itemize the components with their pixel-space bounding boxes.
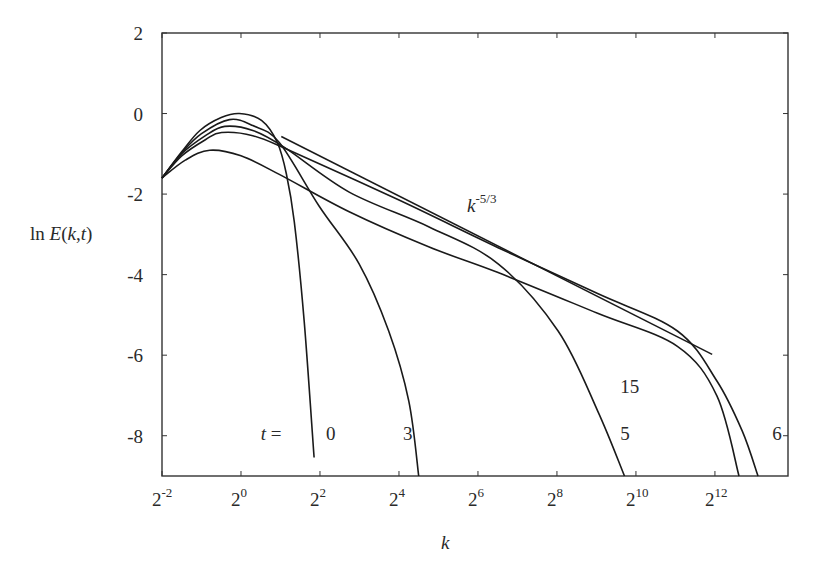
energy-spectrum-chart: 20-2-4-6-8 2-22022242628210212 k-5/3 t =… — [0, 0, 825, 579]
series-line-6 — [162, 132, 758, 476]
series-group: k-5/3 — [162, 113, 758, 476]
series-line-5 — [162, 126, 625, 476]
y-tick-label: 2 — [134, 23, 144, 44]
x-tick-label: 2-2 — [152, 485, 172, 510]
x-tick-label: 210 — [626, 485, 649, 510]
x-axis-title: k — [441, 532, 450, 553]
y-axis-ticks: 20-2-4-6-8 — [127, 23, 788, 447]
y-tick-label: 0 — [134, 104, 144, 125]
series-line-3 — [162, 119, 419, 476]
y-tick-label: -4 — [127, 265, 143, 286]
x-tick-label: 212 — [705, 485, 728, 510]
curve-label: 0 — [326, 423, 336, 444]
curve-label: t = — [261, 423, 282, 444]
curve-label: 6 — [772, 423, 782, 444]
series-line-0 — [162, 113, 314, 457]
y-tick-label: -2 — [127, 184, 143, 205]
y-axis-title: ln E(k,t) — [30, 223, 92, 245]
annotations: t =035156 — [261, 376, 782, 443]
x-tick-label: 28 — [547, 485, 563, 510]
x-tick-label: 24 — [389, 485, 406, 510]
y-tick-label: -8 — [127, 426, 143, 447]
x-axis-ticks: 2-22022242628210212 — [152, 33, 727, 510]
plot-frame — [162, 33, 788, 476]
curve-label: 15 — [620, 376, 639, 397]
series-line-15 — [162, 150, 739, 476]
x-tick-label: 22 — [310, 485, 326, 510]
curve-label: 3 — [403, 423, 413, 444]
reference-line-label: k-5/3 — [467, 191, 496, 216]
x-tick-label: 26 — [468, 485, 485, 510]
x-tick-label: 20 — [231, 485, 247, 510]
reference-line-k-5-3 — [281, 137, 712, 355]
curve-label: 5 — [620, 423, 630, 444]
y-tick-label: -6 — [127, 345, 143, 366]
